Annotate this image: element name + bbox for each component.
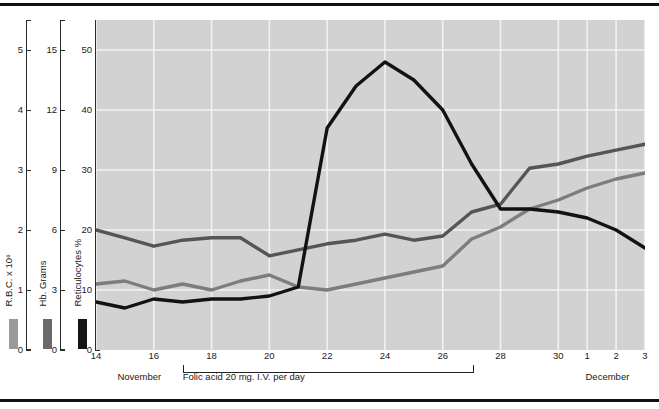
x-tick-label: 14 xyxy=(91,351,102,361)
axis-tick-label: 15 xyxy=(46,45,57,55)
x-tick-label: 20 xyxy=(264,351,275,361)
axis-serif-top xyxy=(26,20,31,21)
month-label: November xyxy=(117,372,161,382)
axis-tick-label: 0 xyxy=(18,345,23,355)
axis-tick-label: 5 xyxy=(18,45,23,55)
axis-tick-label: 50 xyxy=(81,45,92,55)
axis-tick-label: 10 xyxy=(81,285,92,295)
x-tick-label: 28 xyxy=(495,351,506,361)
axis-tick-label: 40 xyxy=(81,105,92,115)
axis-tick xyxy=(60,50,65,51)
axis-tick xyxy=(26,230,31,231)
axis-tick xyxy=(26,50,31,51)
axis-tick-label: 1 xyxy=(18,285,23,295)
bottom-rule xyxy=(0,399,659,402)
x-tick-label: 22 xyxy=(322,351,333,361)
legend-swatch-rbc xyxy=(9,319,18,349)
chart-figure: 543210R.B.C. x 10⁶ 15129630Hb. Grams 504… xyxy=(0,0,659,409)
axis-tick xyxy=(60,110,65,111)
legend-swatch-reticulocytes xyxy=(78,319,87,349)
x-axis: 141618202224262830123NovemberDecemberFol… xyxy=(96,350,645,366)
axis-tick-label: 4 xyxy=(18,105,23,115)
axis-tick-label: 3 xyxy=(52,285,57,295)
x-tick-label: 18 xyxy=(206,351,217,361)
axis-tick-label: 0 xyxy=(52,345,57,355)
axis-tick-label: 20 xyxy=(81,225,92,235)
axis-tick xyxy=(60,350,65,351)
x-tick-label: 1 xyxy=(585,351,590,361)
axis-tick xyxy=(60,230,65,231)
axis-tick xyxy=(26,110,31,111)
top-rule xyxy=(0,3,659,6)
axis-spine xyxy=(60,20,61,350)
axis-tick-label: 6 xyxy=(52,225,57,235)
axis-serif-top xyxy=(60,20,65,21)
axis-tick xyxy=(26,350,31,351)
x-tick-label: 2 xyxy=(613,351,618,361)
axis-tick-label: 2 xyxy=(18,225,23,235)
axis-title-hb: Hb. Grams xyxy=(38,260,48,306)
x-tick-label: 3 xyxy=(642,351,647,361)
axis-tick xyxy=(26,170,31,171)
x-tick-label: 26 xyxy=(437,351,448,361)
legend-swatch-hb xyxy=(43,319,52,349)
plot-area xyxy=(96,20,645,350)
axis-tick-label: 9 xyxy=(52,165,57,175)
axis-title-rbc: R.B.C. x 10⁶ xyxy=(4,254,14,306)
axis-tick xyxy=(60,290,65,291)
x-tick-label: 24 xyxy=(380,351,391,361)
x-tick-label: 16 xyxy=(148,351,159,361)
series-line-reticulocytes xyxy=(96,62,645,308)
axis-title-reticulocytes: Reticulocytes % xyxy=(73,238,83,306)
axis-tick-label: 30 xyxy=(81,165,92,175)
axis-tick xyxy=(60,170,65,171)
axis-tick-label: 12 xyxy=(46,105,57,115)
treatment-annotation-label: Folic acid 20 mg. I.V. per day xyxy=(183,372,305,382)
plot-svg xyxy=(96,20,645,350)
series-line-rbc xyxy=(96,173,645,290)
month-label: December xyxy=(586,372,630,382)
axis-spine xyxy=(26,20,27,350)
axis-tick xyxy=(26,290,31,291)
x-tick-label: 30 xyxy=(553,351,564,361)
axis-tick-label: 3 xyxy=(18,165,23,175)
